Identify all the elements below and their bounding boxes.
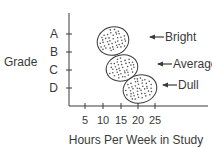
clusters: BrightAverageDull [93, 22, 212, 107]
svg-text:25: 25 [149, 114, 161, 126]
svg-text:D: D [49, 81, 58, 95]
cluster-label: Bright [165, 30, 197, 44]
x-axis-label: Hours Per Week in Study [69, 133, 204, 147]
arrow-icon [157, 62, 172, 67]
svg-text:A: A [50, 27, 58, 41]
arrow-icon [162, 83, 177, 88]
x-tick-labels: 5 10 15 20 25 [82, 114, 161, 126]
svg-text:C: C [49, 63, 58, 77]
cluster-dull: Dull [120, 71, 199, 107]
y-tick-labels: A B C D [49, 27, 58, 95]
svg-text:15: 15 [115, 114, 127, 126]
y-axis-label: Grade [4, 55, 38, 69]
cluster-label: Dull [178, 78, 199, 92]
svg-text:5: 5 [82, 114, 88, 126]
chart: Grade A B C D 5 10 15 20 25 Hours Per We… [0, 0, 212, 148]
svg-text:20: 20 [132, 114, 144, 126]
scatter-plot: Grade A B C D 5 10 15 20 25 Hours Per We… [0, 0, 212, 148]
arrow-icon [149, 35, 164, 40]
svg-text:B: B [50, 45, 58, 59]
svg-text:10: 10 [97, 114, 109, 126]
cluster-label: Average [173, 57, 212, 71]
cluster-bright: Bright [93, 22, 197, 59]
